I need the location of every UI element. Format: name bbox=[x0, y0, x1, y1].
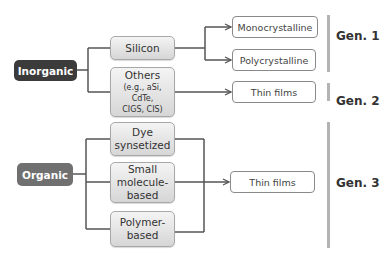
small-molecule-box: Small molecule- based bbox=[110, 162, 175, 203]
gen1-bracket bbox=[327, 15, 330, 72]
solar-cell-classification-diagram: Inorganic Organic Silicon Others (e.g., … bbox=[0, 0, 385, 262]
gen2-bracket bbox=[327, 83, 330, 101]
inorganic-category: Inorganic bbox=[14, 60, 77, 81]
small-molecule-line-2: molecule- bbox=[117, 176, 169, 189]
others-box: Others (e.g., aSi, CdTe, CIGS, CIS) bbox=[110, 67, 175, 117]
others-example-line-3: CIGS, CIS) bbox=[122, 104, 162, 115]
gen3-bracket bbox=[327, 122, 330, 248]
silicon-label: Silicon bbox=[125, 42, 159, 55]
gen3-label: Gen. 3 bbox=[336, 176, 380, 190]
organic-label: Organic bbox=[22, 169, 68, 181]
monocrystalline-label: Monocrystalline bbox=[238, 22, 313, 33]
dye-label-line-1: Dye bbox=[132, 126, 153, 139]
polycrystalline-label: Polycrystalline bbox=[240, 55, 309, 66]
polymer-line-2: based bbox=[127, 229, 159, 242]
thin-films-gen2-box: Thin films bbox=[232, 81, 316, 103]
small-molecule-line-1: Small bbox=[128, 163, 157, 176]
others-example-line-2: CdTe, bbox=[132, 93, 154, 104]
thin-films-gen3-box: Thin films bbox=[230, 171, 315, 193]
polymer-box: Polymer- based bbox=[110, 211, 175, 247]
small-molecule-line-3: based bbox=[127, 189, 159, 202]
others-label: Others bbox=[125, 69, 160, 82]
silicon-box: Silicon bbox=[110, 36, 175, 60]
polycrystalline-box: Polycrystalline bbox=[232, 49, 316, 71]
inorganic-label: Inorganic bbox=[18, 65, 74, 77]
thin-films-gen3-label: Thin films bbox=[249, 177, 295, 188]
dye-label-line-2: synsetized bbox=[115, 139, 171, 152]
dye-sensitized-box: Dye synsetized bbox=[110, 122, 175, 156]
others-example-line-1: (e.g., aSi, bbox=[123, 82, 161, 93]
organic-category: Organic bbox=[17, 163, 73, 186]
gen2-label: Gen. 2 bbox=[336, 94, 380, 108]
gen1-label: Gen. 1 bbox=[336, 29, 380, 43]
thin-films-gen2-label: Thin films bbox=[251, 87, 297, 98]
monocrystalline-box: Monocrystalline bbox=[232, 16, 318, 38]
polymer-line-1: Polymer- bbox=[120, 216, 166, 229]
